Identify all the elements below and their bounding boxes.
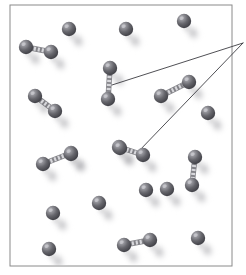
atom-right-mid-2 xyxy=(139,183,153,197)
atom-left-bottom-1-body xyxy=(42,242,56,256)
molecule-right-vertical-pair-atom-0 xyxy=(188,150,202,164)
molecule-center-vertical-pair-atom-0 xyxy=(103,61,117,75)
atom-middle-right-1 xyxy=(160,182,174,196)
molecule-center-vertical-pair-atom-1-body xyxy=(101,92,115,106)
atom-middle-right-1-body xyxy=(160,182,174,196)
atom-left-low-1 xyxy=(46,206,60,220)
atom-top-3 xyxy=(177,14,191,28)
molecule-left-middle-pair-atom-0 xyxy=(36,157,50,171)
atom-right-mid-2-body xyxy=(139,183,153,197)
atom-middle-left-1 xyxy=(64,147,78,161)
atom-center-low-1 xyxy=(92,196,106,210)
molecule-left-upper-pair-atom-0 xyxy=(28,89,42,103)
molecule-right-upper-pair-atom-0 xyxy=(154,89,168,103)
atom-top-2 xyxy=(119,22,133,36)
atom-center-low-1-body xyxy=(92,196,106,210)
molecule-right-vertical-pair-atom-0-body xyxy=(188,150,202,164)
atom-left-bottom-1 xyxy=(42,242,56,256)
molecule-center-middle-pair-atom-1 xyxy=(136,148,150,162)
molecule-bottom-center-pair-atom-1-body xyxy=(143,233,157,247)
sample-frame xyxy=(10,5,232,266)
atom-right-bottom-1-body xyxy=(191,231,205,245)
molecule-center-vertical-pair-atom-0-body xyxy=(103,61,117,75)
molecule-top-left-pair-atom-1 xyxy=(44,45,58,59)
atom-right-bottom-1 xyxy=(191,231,205,245)
molecule-right-upper-pair-atom-1 xyxy=(182,75,196,89)
molecule-right-upper-pair-atom-1-body xyxy=(182,75,196,89)
atom-right-1-body xyxy=(201,106,215,120)
molecule-right-vertical-pair-atom-1 xyxy=(185,178,199,192)
molecule-left-upper-pair-atom-1-body xyxy=(48,104,62,118)
atom-center-1-body xyxy=(113,141,127,155)
atom-top-2-body xyxy=(119,22,133,36)
molecule-top-left-pair-atom-0-body xyxy=(19,40,33,54)
molecule-center-middle-pair-atom-1-body xyxy=(136,148,150,162)
atom-right-1 xyxy=(201,106,215,120)
atom-top-3-body xyxy=(177,14,191,28)
molecule-right-upper-pair-atom-0-body xyxy=(154,89,168,103)
molecule-bottom-center-pair-atom-0 xyxy=(117,238,131,252)
molecule-bottom-center-pair-atom-1 xyxy=(143,233,157,247)
atom-top-1 xyxy=(62,22,76,36)
atom-top-1-body xyxy=(62,22,76,36)
diagram-canvas xyxy=(0,0,246,275)
atom-middle-left-1-body xyxy=(64,147,78,161)
molecule-top-left-pair-atom-1-body xyxy=(44,45,58,59)
molecule-top-left-pair-atom-0 xyxy=(19,40,33,54)
molecule-left-upper-pair-atom-0-body xyxy=(28,89,42,103)
molecule-left-middle-pair-atom-0-body xyxy=(36,157,50,171)
molecular-diagram-figure xyxy=(0,0,246,275)
molecule-right-vertical-pair-atom-1-body xyxy=(185,178,199,192)
molecule-bottom-center-pair-atom-0-body xyxy=(117,238,131,252)
atom-center-1 xyxy=(113,141,127,155)
molecule-left-upper-pair-atom-1 xyxy=(48,104,62,118)
molecule-center-vertical-pair-atom-1 xyxy=(101,92,115,106)
atom-left-low-1-body xyxy=(46,206,60,220)
